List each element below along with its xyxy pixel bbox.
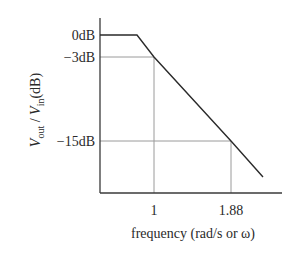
y-label-sub-in: in [35, 99, 46, 107]
y-tick-minus15db: −15dB [57, 134, 95, 149]
y-tick-0db: 0dB [72, 28, 95, 43]
y-tick-minus3db: −3dB [64, 50, 95, 65]
frequency-response-chart: 0dB −3dB −15dB 1 1.88 frequency (rad/s o… [0, 0, 289, 258]
y-label-sub-out: out [35, 126, 46, 139]
y-label-separator: / [28, 115, 43, 126]
x-tick-1-88: 1.88 [219, 203, 244, 218]
y-axis-label: Vout / Vin(dB) [28, 73, 46, 148]
response-curve [100, 35, 263, 177]
x-tick-1: 1 [151, 203, 158, 218]
y-label-unit: (dB) [28, 73, 44, 99]
reference-lines [100, 57, 231, 193]
x-axis-label: frequency (rad/s or ω) [131, 226, 255, 242]
